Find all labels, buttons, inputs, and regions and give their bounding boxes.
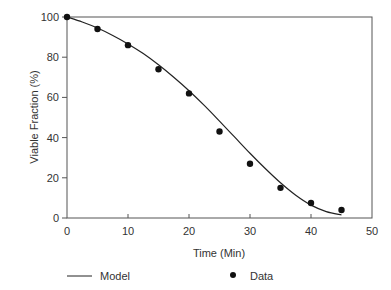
y-axis-label: Viable Fraction (%) [28,70,40,163]
y-tick-label: 80 [47,51,59,63]
x-tick-label: 30 [244,225,256,237]
y-tick-label: 60 [47,91,59,103]
model-line [67,17,342,215]
data-point [186,90,192,96]
x-tick-label: 50 [366,225,378,237]
data-point [277,185,283,191]
plot-frame [67,17,372,218]
legend: Model Data [67,270,274,282]
y-tick-label: 20 [47,172,59,184]
legend-data-label: Data [250,270,274,282]
data-point [64,14,70,20]
data-point [125,42,131,48]
y-tick-label: 100 [41,11,59,23]
model-curve [67,17,342,215]
x-tick-label: 0 [64,225,70,237]
data-point [247,161,253,167]
data-point [94,26,100,32]
legend-dot-icon [230,272,236,278]
x-axis-ticks: 01020304050 [64,214,378,237]
data-points [64,14,345,213]
data-point [338,207,344,213]
y-tick-label: 40 [47,132,59,144]
x-tick-label: 20 [183,225,195,237]
legend-model-label: Model [100,270,130,282]
chart: 020406080100 01020304050 Time (Min) Viab… [0,0,391,290]
y-tick-label: 0 [53,212,59,224]
data-point [155,66,161,72]
x-tick-label: 40 [305,225,317,237]
x-tick-label: 10 [122,225,134,237]
y-axis-ticks: 020406080100 [41,11,67,224]
data-point [216,128,222,134]
data-point [308,200,314,206]
x-axis-label: Time (Min) [193,247,245,259]
